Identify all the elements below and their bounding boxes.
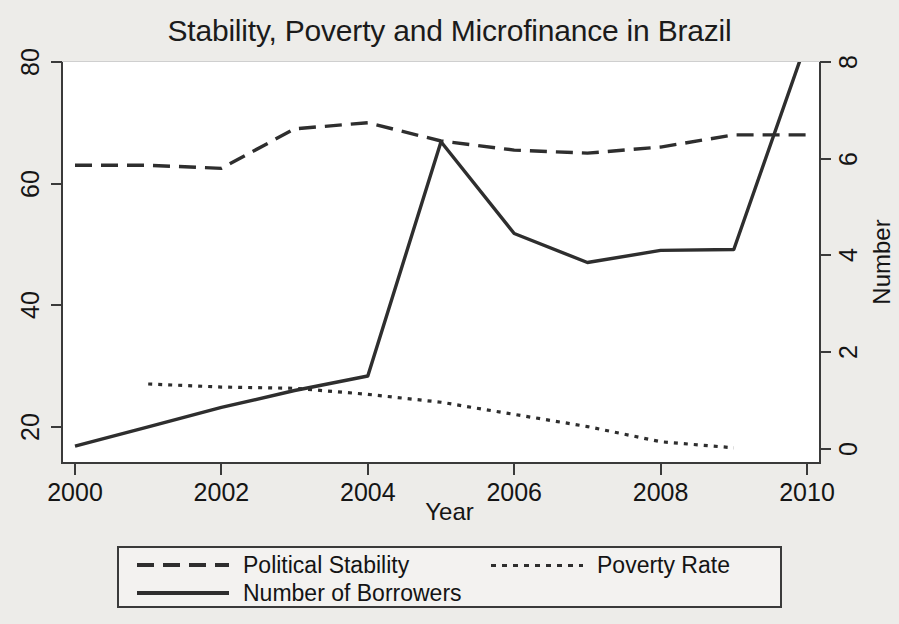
x-axis-tick-label: 2000 (47, 478, 103, 507)
y-axis-left-tick-label: 20 (16, 413, 45, 441)
chart-legend: Political Stability Poverty Rate Number … (117, 546, 782, 608)
x-axis-tick (513, 464, 515, 475)
x-axis-tick-label: 2008 (633, 478, 689, 507)
y-axis-right-tick-label: 4 (834, 248, 863, 262)
y-axis-left-tick (51, 183, 62, 185)
x-axis-tick (74, 464, 76, 475)
x-axis-tick-label: 2004 (340, 478, 396, 507)
y-axis-right-title: Number (868, 219, 896, 304)
y-axis-right-tick-label: 0 (834, 442, 863, 456)
series-lines (62, 62, 820, 463)
x-axis-tick (220, 464, 222, 475)
y-axis-left-tick-label: 40 (16, 291, 45, 319)
x-axis-tick (367, 464, 369, 475)
x-axis-tick (806, 464, 808, 475)
series-line-poverty-rate (148, 384, 734, 448)
chart-figure: Stability, Poverty and Microfinance in B… (0, 0, 899, 624)
x-axis-spine (61, 462, 821, 464)
plot-area (62, 62, 820, 463)
y-axis-right-spine (819, 62, 821, 464)
y-axis-left-tick (51, 304, 62, 306)
y-axis-left-spine (61, 62, 63, 464)
legend-label-number-of-borrowers: Number of Borrowers (243, 580, 462, 607)
x-axis-tick-label: 2006 (486, 478, 542, 507)
legend-label-poverty-rate: Poverty Rate (597, 552, 730, 579)
y-axis-left-tick (51, 61, 62, 63)
legend-item-poverty-rate: Poverty Rate (491, 552, 730, 578)
legend-key-dotted-icon (491, 564, 583, 567)
chart-title: Stability, Poverty and Microfinance in B… (0, 14, 899, 48)
legend-item-number-of-borrowers: Number of Borrowers (137, 580, 462, 606)
y-axis-left-tick-label: 80 (16, 48, 45, 76)
y-axis-right-tick (820, 351, 831, 353)
plot-frame-top (61, 61, 821, 62)
x-axis-tick (660, 464, 662, 475)
y-axis-right-tick-label: 8 (834, 55, 863, 69)
legend-label-political-stability: Political Stability (243, 552, 409, 579)
series-line-number-of-borrowers (75, 62, 807, 446)
y-axis-right-tick (820, 158, 831, 160)
y-axis-right-tick-label: 2 (834, 345, 863, 359)
legend-item-political-stability: Political Stability (137, 552, 409, 578)
x-axis-tick-label: 2002 (194, 478, 250, 507)
x-axis-tick-label: 2010 (779, 478, 835, 507)
legend-key-dashed-icon (137, 563, 229, 567)
y-axis-right-tick (820, 61, 831, 63)
y-axis-left-tick (51, 426, 62, 428)
y-axis-right-tick (820, 448, 831, 450)
x-axis-title: Year (0, 498, 899, 526)
y-axis-right-tick (820, 254, 831, 256)
legend-key-solid-icon (137, 591, 229, 595)
y-axis-right-tick-label: 6 (834, 152, 863, 166)
y-axis-left-tick-label: 60 (16, 170, 45, 198)
